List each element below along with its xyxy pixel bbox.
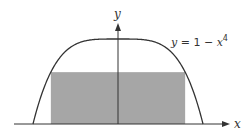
y-axis-arrow-icon [115,23,121,31]
y-axis-label: y [113,7,121,21]
x-axis-arrow-icon [222,121,230,127]
graph-canvas: y x y = 1 − x4 [0,0,250,135]
function-label: y = 1 − x4 [170,34,228,49]
function-label-exponent: 4 [223,34,228,43]
function-label-rest: = 1 − [177,36,216,49]
x-axis-label: x [234,117,241,131]
